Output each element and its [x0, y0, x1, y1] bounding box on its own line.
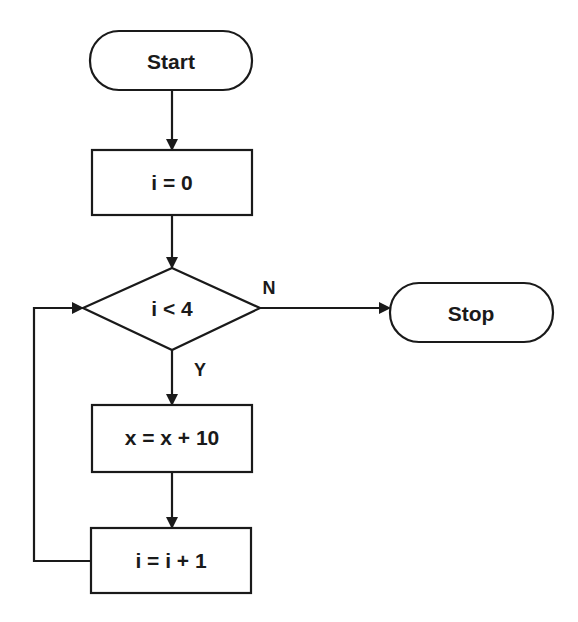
yes-branch-label: Y	[194, 360, 206, 380]
condition-label: i < 4	[151, 297, 193, 320]
start-label: Start	[147, 50, 195, 73]
edge-loop-back	[34, 308, 91, 561]
incr-label: i = i + 1	[135, 549, 207, 572]
body-label: x = x + 10	[125, 426, 220, 449]
no-branch-label: N	[263, 278, 276, 298]
flowchart: Start i = 0 i < 4 Stop x = x + 10 i = i …	[0, 0, 578, 622]
init-label: i = 0	[151, 171, 192, 194]
stop-label: Stop	[448, 302, 495, 325]
